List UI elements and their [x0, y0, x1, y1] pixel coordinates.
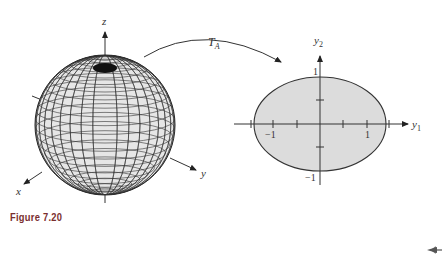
- sphere-pole: [93, 63, 117, 73]
- tick-label-neg1-v: −1: [305, 172, 316, 183]
- y-axis-label: y: [200, 167, 206, 179]
- x-axis: [24, 172, 42, 184]
- x-axis-label: x: [15, 185, 21, 197]
- mapping-arrow: TA: [144, 35, 281, 62]
- y-axis: [170, 158, 196, 170]
- tick-label-neg1-h: −1: [265, 129, 276, 140]
- tick-label-pos1-v: 1: [313, 66, 318, 77]
- ellipse-diagram: −1 1 1 −1 y1 y2: [234, 34, 421, 185]
- mapping-label: TA: [208, 35, 220, 51]
- back-arrow-icon[interactable]: [427, 247, 442, 253]
- figure-canvas: z y x TA −1 1 1: [0, 0, 442, 256]
- y1-axis-label: y1: [411, 118, 421, 133]
- figure-caption: Figure 7.20: [10, 211, 62, 223]
- y2-axis-label: y2: [313, 34, 323, 49]
- tick-label-pos1-h: 1: [365, 129, 370, 140]
- z-axis-label: z: [101, 15, 107, 27]
